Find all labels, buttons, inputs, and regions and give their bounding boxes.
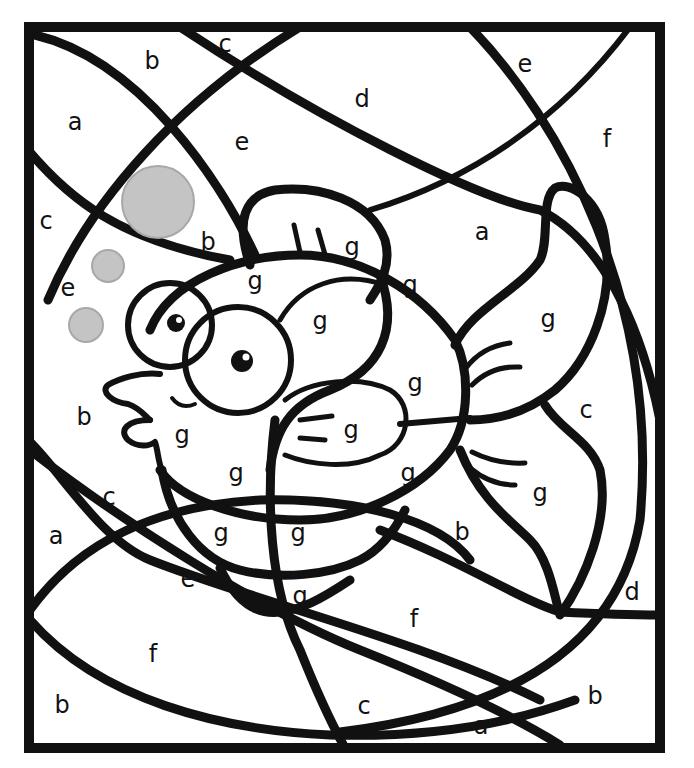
bubble-large-icon	[122, 166, 194, 238]
region-label-g: g	[540, 305, 555, 333]
region-label-a: a	[49, 522, 64, 550]
region-label-f: f	[603, 125, 612, 153]
region-label-g: g	[343, 416, 358, 444]
region-label-b: b	[454, 518, 469, 546]
region-label-g: g	[247, 267, 262, 295]
region-label-g: g	[292, 582, 307, 610]
region-label-e: e	[235, 128, 250, 156]
region-label-e: e	[518, 50, 533, 78]
region-label-c: c	[357, 692, 370, 720]
fish-pupil-right	[231, 350, 253, 372]
region-label-a: a	[475, 218, 490, 246]
region-label-b: b	[200, 228, 215, 256]
bubble-medium-icon	[92, 250, 124, 282]
fish-pupil-right-highlight	[243, 354, 250, 361]
region-label-b: b	[54, 691, 69, 719]
region-label-g: g	[532, 479, 547, 507]
region-label-g: g	[249, 586, 264, 614]
region-label-e: e	[61, 274, 76, 302]
region-label-c: c	[39, 207, 52, 235]
region-label-c: c	[218, 30, 231, 58]
region-label-b: b	[144, 47, 159, 75]
region-label-g: g	[312, 307, 327, 335]
region-label-g: g	[174, 421, 189, 449]
region-label-g: g	[407, 369, 422, 397]
fish-pupil-left-highlight	[176, 317, 182, 323]
region-label-g: g	[344, 233, 359, 261]
region-label-g: g	[402, 271, 417, 299]
region-label-b: b	[587, 682, 602, 710]
region-label-f: f	[410, 605, 419, 633]
region-label-e: e	[181, 565, 196, 593]
bubble-small-icon	[69, 308, 103, 342]
fish-pupil-left	[167, 314, 185, 332]
region-label-f: f	[149, 640, 158, 668]
region-label-c: c	[579, 396, 592, 424]
region-label-a: a	[474, 712, 489, 740]
region-label-d: d	[354, 85, 369, 113]
region-label-c: c	[102, 483, 115, 511]
coloring-page: bceadefcbgaegggggbcggggcgaggbeggdffbbca	[0, 0, 694, 768]
region-label-g: g	[400, 459, 415, 487]
pectoral-fin-stroke-2	[300, 438, 325, 440]
region-label-d: d	[624, 578, 639, 606]
region-label-g: g	[213, 519, 228, 547]
region-label-g: g	[228, 459, 243, 487]
region-label-g: g	[290, 519, 305, 547]
region-label-b: b	[76, 403, 91, 431]
region-label-a: a	[68, 108, 83, 136]
